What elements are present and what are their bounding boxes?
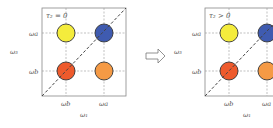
y-axis-label: ω₃ <box>10 48 18 56</box>
diagram: τ₂ = 0 ωa ωb ω₃ ωb ωa ω₁ τ₂ > 0 ωa ωb ω₃… <box>0 0 273 128</box>
peak-bottom-right <box>258 62 273 80</box>
peak-top-left <box>220 24 238 42</box>
condition-label: τ₂ > 0 <box>209 12 231 20</box>
x-axis-label: ω₁ <box>80 111 88 119</box>
condition-label: τ₂ = 0 <box>46 12 68 20</box>
y-tick-a: ωa <box>29 30 38 38</box>
x-tick-a: ωa <box>99 100 108 108</box>
y-tick-a: ωa <box>192 30 201 38</box>
y-tick-b: ωb <box>192 68 201 76</box>
panel-left: τ₂ = 0 ωa ωb ω₃ ωb ωa ω₁ <box>10 8 126 119</box>
y-tick-b: ωb <box>29 68 38 76</box>
plot-frame <box>205 8 273 96</box>
x-axis-label: ω₁ <box>243 111 251 119</box>
peak-top-left <box>57 24 75 42</box>
peak-bottom-right <box>95 62 113 80</box>
x-tick-a: ωa <box>262 100 271 108</box>
x-tick-b: ωb <box>61 100 70 108</box>
x-tick-b: ωb <box>224 100 233 108</box>
transition-arrow <box>146 49 165 63</box>
arrow-right-icon <box>146 49 165 63</box>
y-axis-label: ω₃ <box>174 48 182 56</box>
panel-right: τ₂ > 0 ωa ωb ω₃ ωb ωa ω₁ <box>174 8 273 119</box>
peak-top-right <box>95 24 113 42</box>
